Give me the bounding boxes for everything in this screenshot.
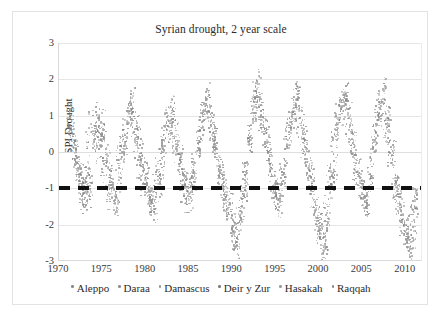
data-point	[348, 108, 350, 110]
data-point	[153, 211, 155, 213]
data-point	[283, 172, 285, 174]
data-point	[119, 191, 121, 193]
data-point	[80, 174, 82, 176]
data-point	[269, 165, 271, 167]
data-point	[304, 131, 306, 133]
data-point	[301, 138, 303, 140]
data-point	[333, 153, 335, 155]
data-point	[367, 215, 369, 217]
data-point	[245, 190, 247, 192]
data-point	[136, 122, 138, 124]
data-point	[317, 215, 319, 217]
data-point	[281, 171, 283, 173]
data-point	[168, 136, 170, 138]
data-point	[215, 133, 217, 135]
data-point	[223, 206, 225, 208]
data-point	[66, 110, 68, 112]
data-point	[113, 170, 115, 172]
legend-item-deir-y-zur[interactable]: Deir y Zur	[218, 282, 270, 294]
data-point	[157, 183, 159, 185]
data-point	[251, 151, 253, 153]
data-point	[161, 167, 163, 169]
data-point	[323, 226, 325, 228]
data-point	[202, 126, 204, 128]
data-point	[116, 194, 118, 196]
data-point	[380, 109, 382, 111]
data-point	[384, 88, 386, 90]
legend-item-raqqah[interactable]: Raqqah	[332, 282, 371, 294]
data-point	[219, 177, 221, 179]
data-point	[354, 146, 356, 148]
data-point	[68, 123, 70, 125]
data-point	[383, 129, 385, 131]
legend-item-daraa[interactable]: Daraa	[118, 282, 150, 294]
data-point	[240, 197, 242, 199]
data-point	[366, 202, 368, 204]
data-point	[239, 243, 241, 245]
data-point	[179, 174, 181, 176]
data-point	[89, 155, 91, 157]
data-point	[153, 219, 155, 221]
data-point	[232, 193, 234, 195]
data-point	[293, 99, 295, 101]
legend-marker-icon	[118, 285, 120, 287]
data-point	[408, 215, 410, 217]
data-point	[217, 182, 219, 184]
data-point	[300, 125, 302, 127]
data-point	[198, 141, 200, 143]
data-point	[197, 147, 199, 149]
data-point	[153, 191, 155, 193]
data-point	[192, 169, 194, 171]
data-point	[372, 177, 374, 179]
data-point	[240, 229, 242, 231]
data-point	[295, 120, 297, 122]
data-point	[258, 106, 260, 108]
data-point	[286, 148, 288, 150]
legend-item-damascus[interactable]: Damascus	[159, 282, 210, 294]
data-point	[238, 254, 240, 256]
data-point	[142, 166, 144, 168]
data-point	[390, 131, 392, 133]
data-point	[242, 171, 244, 173]
data-point	[391, 154, 393, 156]
data-point	[367, 167, 369, 169]
data-point	[96, 121, 98, 123]
data-point	[395, 174, 397, 176]
data-point	[326, 229, 328, 231]
data-point	[399, 235, 401, 237]
data-point	[72, 136, 74, 138]
data-point	[117, 147, 119, 149]
data-point	[382, 113, 384, 115]
data-point	[377, 135, 379, 137]
legend-item-aleppo[interactable]: Aleppo	[71, 282, 109, 294]
data-point	[138, 130, 140, 132]
data-point	[408, 243, 410, 245]
data-point	[305, 133, 307, 135]
data-point	[403, 202, 405, 204]
data-point	[258, 92, 260, 94]
data-point	[66, 118, 68, 120]
data-point	[199, 141, 201, 143]
data-point	[171, 99, 173, 101]
data-point	[157, 175, 159, 177]
data-point	[384, 102, 386, 104]
data-point	[209, 132, 211, 134]
data-point	[326, 253, 328, 255]
data-point	[68, 104, 70, 106]
data-point	[86, 148, 88, 150]
data-point	[174, 162, 176, 164]
data-point	[208, 91, 210, 93]
data-point	[345, 133, 347, 135]
data-point	[285, 149, 287, 151]
data-point	[223, 209, 225, 211]
data-point	[290, 121, 292, 123]
data-point	[242, 219, 244, 221]
data-point	[279, 195, 281, 197]
data-point	[260, 77, 262, 79]
legend-item-hasakah[interactable]: Hasakah	[279, 282, 322, 294]
data-point	[120, 172, 122, 174]
data-point	[370, 161, 372, 163]
data-point	[233, 246, 235, 248]
data-point	[69, 129, 71, 131]
data-point	[114, 195, 116, 197]
